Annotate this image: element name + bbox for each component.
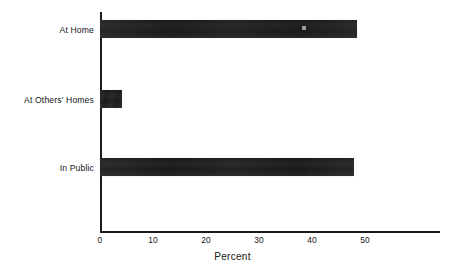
category-label-in-public: In Public (0, 164, 94, 173)
plot-area: At Home At Others' Homes In Public 0 10 … (0, 0, 455, 275)
bar-at-home (100, 20, 357, 38)
bar-in-public (100, 158, 354, 176)
x-axis-title: Percent (100, 252, 365, 262)
category-label-at-home: At Home (0, 26, 94, 35)
category-axis-line (100, 12, 102, 233)
x-tick-label-0: 0 (80, 236, 120, 244)
x-tick-label-30: 30 (239, 236, 279, 244)
x-tick-label-10: 10 (133, 236, 173, 244)
category-label-at-others-homes: At Others' Homes (0, 96, 94, 105)
x-tick-label-50: 50 (345, 236, 385, 244)
bar-chart: At Home At Others' Homes In Public 0 10 … (0, 0, 455, 275)
x-tick-label-40: 40 (292, 236, 332, 244)
value-axis-line (100, 231, 440, 233)
scan-artifact-speck (302, 26, 306, 30)
bar-at-others-homes (100, 90, 122, 108)
x-tick-label-20: 20 (186, 236, 226, 244)
